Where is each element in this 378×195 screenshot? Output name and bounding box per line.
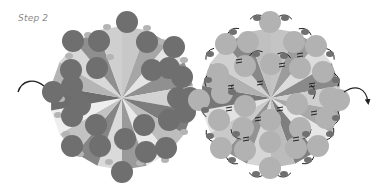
bead: [234, 139, 256, 161]
bead: [61, 135, 83, 157]
right-beaded-component: [188, 11, 368, 179]
bead: [42, 81, 64, 103]
small-bead: [332, 115, 340, 121]
bead: [61, 75, 83, 97]
bead: [133, 114, 155, 136]
bead: [86, 57, 108, 79]
small-bead: [201, 107, 209, 113]
bead: [171, 66, 193, 88]
small-bead: [103, 24, 111, 30]
bead: [163, 36, 185, 58]
bead: [260, 53, 282, 75]
bead: [259, 109, 281, 131]
small-bead: [301, 29, 309, 35]
small-bead: [106, 54, 114, 60]
bead: [289, 57, 311, 79]
small-bead: [229, 29, 237, 35]
small-bead: [228, 157, 236, 163]
small-bead: [281, 15, 289, 21]
bead: [111, 161, 133, 183]
bead: [259, 131, 281, 153]
bead: [305, 35, 327, 57]
bead: [135, 141, 157, 163]
small-bead: [280, 53, 288, 59]
bead: [62, 30, 84, 52]
small-bead: [206, 133, 214, 139]
bead: [136, 31, 158, 53]
small-bead: [54, 112, 62, 118]
bead: [89, 135, 111, 157]
small-bead: [252, 171, 260, 177]
bead: [259, 157, 281, 179]
left-beaded-component: [18, 11, 201, 183]
small-bead: [180, 57, 188, 63]
bead: [237, 31, 259, 53]
small-bead: [232, 131, 240, 137]
small-bead: [332, 77, 340, 83]
small-bead: [204, 77, 212, 83]
bead: [328, 89, 350, 111]
bead: [114, 128, 136, 150]
small-bead: [308, 89, 316, 95]
small-bead: [326, 51, 334, 57]
small-bead: [180, 129, 188, 135]
bead: [61, 105, 83, 127]
bead: [234, 95, 256, 117]
bead: [307, 135, 329, 157]
bead: [208, 109, 230, 131]
small-bead: [326, 131, 334, 137]
small-bead: [206, 51, 214, 57]
bead: [155, 137, 177, 159]
small-bead: [228, 89, 236, 95]
thread-entry-arrow: [18, 81, 44, 92]
small-bead: [302, 131, 310, 137]
beadwork-diagram: [0, 0, 378, 195]
bead: [234, 55, 256, 77]
bead: [286, 93, 308, 115]
small-bead: [253, 15, 261, 21]
small-bead: [304, 157, 312, 163]
bead: [312, 61, 334, 83]
bead: [210, 137, 232, 159]
bead: [85, 114, 107, 136]
small-bead: [105, 159, 113, 165]
bead: [259, 11, 281, 33]
bead: [116, 11, 138, 33]
small-bead: [65, 53, 73, 59]
small-bead: [280, 171, 288, 177]
bead: [88, 30, 110, 52]
bead: [283, 31, 305, 53]
bead: [215, 33, 237, 55]
small-bead: [143, 25, 151, 31]
small-bead: [252, 51, 260, 57]
